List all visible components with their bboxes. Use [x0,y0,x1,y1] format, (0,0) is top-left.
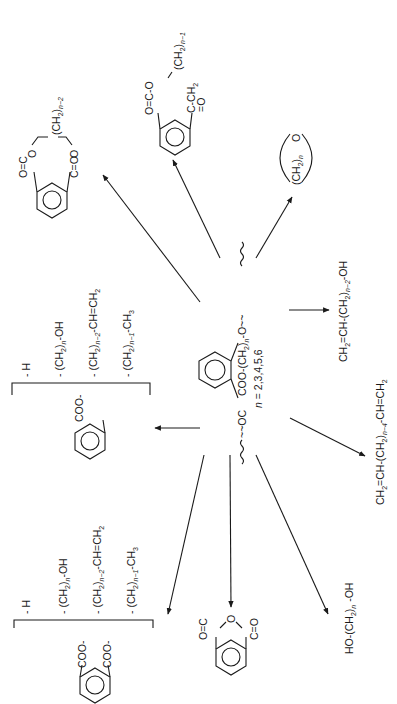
arrow-to-diene [290,418,365,456]
bridge-label: (CH2)n−2 [50,97,64,135]
center-left-group: ~~OC [236,410,248,438]
carboxylate-label: COO- [76,640,88,668]
n-values-label: n = 2,3,4,5,6 [252,349,264,408]
substituent-hydroxyalkyl: - (CH2)n-OH [53,321,67,377]
benzene-ring-icon [216,640,246,675]
product-benzoate-esters: COO- - H - (CH2)n-OH - (CH2)n−2-CH=CH2 -… [12,289,150,459]
ester-label: O=C-O [143,81,155,115]
product-cyclic-diester: O=C C=O O O (CH2)n−2 [17,97,80,218]
product-lactone: O=C-O C-CH2 =O (CH2)n−1 [143,32,207,155]
substituent-h: - H [20,600,32,614]
product-unsaturated-alcohol: CH2=CH-(CH2)n−2-OH [337,261,351,362]
oxygen-label: O [290,134,302,142]
substituent-bracket [12,383,150,395]
substituent-alkenyl: - (CH2)n−2-CH=CH2 [91,526,105,614]
product-cyclic-ether: O (CH2)n [280,134,312,185]
oxygen-label: O [68,150,80,158]
arrow-to-cyclic-diester [103,175,200,302]
benzene-ring-icon [37,183,67,218]
substituent-bracket [14,620,153,628]
benzene-ring-icon [160,120,190,155]
arrow-to-diol [256,455,328,614]
wavy-bond-right-icon [241,242,244,266]
arrow-to-cyclic-ether [256,197,292,258]
chain-label: (CH2)n−1 [172,32,186,70]
carbonyl-label: C=O [68,156,80,178]
center-polymer-unit: ~~OC COO-(CH2)n-O~~ n = 2,3,4,5,6 [199,242,264,464]
oxygen-label: O [26,150,38,158]
product-diene: CH2=CH-(CH2)n−4-CH=CH2 [374,379,388,505]
center-right-group: COO-(CH2)n-O~~ [236,315,250,396]
substituent-alkyl: - (CH2)n−1-CH3 [125,547,139,614]
arrow-to-anhydride [230,455,231,607]
benzene-ring-icon [80,668,110,703]
substituent-alkyl: - (CH2)n−1-CH3 [121,310,135,377]
benzene-ring-icon [199,352,231,388]
carboxylate-label: COO- [73,394,85,422]
carbonyl-label: O=C [17,156,29,178]
wavy-bond-left-icon [241,440,244,464]
arrow-to-lactone [173,160,220,258]
keto-label: =O [195,98,207,112]
substituent-hydroxyalkyl: - (CH2)n-OH [57,558,71,614]
arrow-to-phthalates [168,455,204,614]
carboxylate-label: COO- [101,640,113,668]
product-diol: HO-(CH2)n -OH [343,583,357,654]
product-phthalic-anhydride: O=C C=O O [197,615,260,675]
carbonyl-label: C=O [248,618,260,640]
ether-ring-label: (CH2)n [290,155,304,185]
carbonyl-label: O=C [197,618,209,640]
scheme-svg: ~~OC COO-(CH2)n-O~~ n = 2,3,4,5,6 O=C [0,0,397,704]
substituent-alkenyl: - (CH2)n−2-CH=CH2 [87,289,101,377]
product-phthalate-esters: COO- COO- - H - (CH2)n-OH - (CH2)n−2-CH=… [14,526,153,703]
oxygen-label: O [225,615,237,623]
substituent-h: - H [20,363,32,377]
reaction-scheme: ~~OC COO-(CH2)n-O~~ n = 2,3,4,5,6 O=C [0,0,397,704]
benzene-ring-icon [75,424,105,459]
